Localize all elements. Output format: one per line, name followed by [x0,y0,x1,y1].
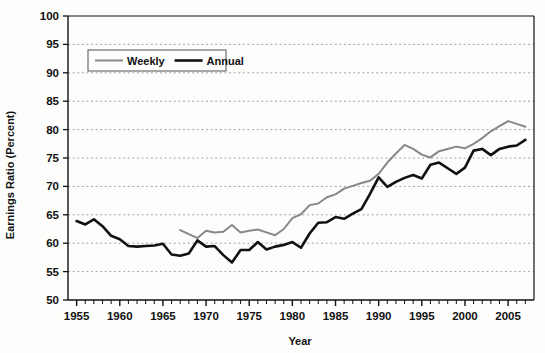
y-tick-label: 50 [46,294,59,306]
chart-canvas: 50556065707580859095100 1955196019651970… [0,0,545,353]
x-tick-label: 1985 [323,310,349,322]
x-tick-label: 1970 [193,310,219,322]
y-tick-label: 80 [46,124,59,136]
x-tick-label: 1995 [409,310,435,322]
y-axis-title: Earnings Ratio (Percent) [4,110,16,239]
y-tick-label: 55 [46,266,59,278]
legend-label-annual: Annual [207,55,244,67]
data-series [77,121,526,262]
y-tick-label: 70 [46,180,59,192]
series-line-weekly [180,121,525,238]
y-tick-label: 100 [40,10,59,22]
gridlines [68,44,534,271]
y-tick-label: 95 [46,38,59,50]
series-line-annual [77,140,526,263]
y-tick-label: 65 [46,209,59,221]
y-tick-label: 90 [46,67,59,79]
chart-legend: WeeklyAnnual [88,50,244,71]
x-tick-label: 2000 [452,310,478,322]
x-tick-label: 1980 [280,310,306,322]
y-tick-label: 85 [46,95,59,107]
x-axis-tick-labels: 1955196019651970197519801985199019952000… [64,310,522,322]
x-tick-label: 1990 [366,310,392,322]
x-tick-label: 1960 [107,310,133,322]
x-tick-label: 1955 [64,310,90,322]
x-tick-label: 1975 [236,310,262,322]
y-tick-label: 75 [46,152,59,164]
earnings-ratio-line-chart: 50556065707580859095100 1955196019651970… [0,0,545,353]
y-axis-tick-labels: 50556065707580859095100 [40,10,60,306]
legend-label-weekly: Weekly [127,55,166,67]
y-tick-label: 60 [46,237,59,249]
x-axis-title: Year [288,335,312,347]
x-tick-label: 2005 [495,310,521,322]
x-tick-label: 1965 [150,310,176,322]
